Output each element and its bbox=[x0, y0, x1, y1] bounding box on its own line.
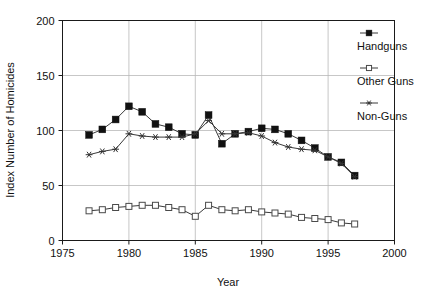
x-tick-label: 2000 bbox=[382, 247, 406, 259]
y-tick-label: 200 bbox=[36, 15, 54, 27]
marker-filled-square bbox=[218, 140, 225, 147]
marker-filled-square bbox=[245, 128, 252, 135]
marker-open-square bbox=[99, 207, 105, 213]
marker-open-square bbox=[139, 202, 145, 208]
marker-filled-square bbox=[152, 121, 159, 128]
y-tick-label: 100 bbox=[36, 125, 54, 137]
marker-filled-square bbox=[139, 108, 146, 115]
marker-open-square bbox=[352, 221, 358, 227]
marker-open-square bbox=[179, 207, 185, 213]
marker-filled-square bbox=[258, 125, 265, 132]
y-tick-label: 150 bbox=[36, 70, 54, 82]
marker-open-square bbox=[219, 207, 225, 213]
x-tick-label: 1985 bbox=[183, 247, 207, 259]
legend-label: Other Guns bbox=[357, 75, 414, 87]
marker-open-square bbox=[338, 220, 344, 226]
marker-filled-square bbox=[86, 132, 93, 139]
x-tick-label: 1995 bbox=[316, 247, 340, 259]
legend-label: Non-Guns bbox=[357, 110, 408, 122]
marker-open-square bbox=[206, 202, 212, 208]
marker-open-square bbox=[86, 208, 92, 214]
marker-filled-square bbox=[351, 172, 358, 179]
marker-open-square bbox=[232, 208, 238, 214]
marker-open-square bbox=[285, 211, 291, 217]
marker-open-square bbox=[245, 207, 251, 213]
y-tick-label: 0 bbox=[48, 235, 54, 247]
x-tick-label: 1975 bbox=[50, 247, 74, 259]
marker-open-square bbox=[299, 214, 305, 220]
x-tick-label: 1990 bbox=[249, 247, 273, 259]
marker-filled-square bbox=[272, 126, 279, 133]
marker-filled-square bbox=[126, 103, 133, 110]
legend-label: Handguns bbox=[357, 40, 408, 52]
marker-open-square bbox=[325, 217, 331, 223]
y-axis-title: Index Number of Homicides bbox=[4, 62, 16, 198]
marker-filled-square bbox=[205, 112, 212, 119]
marker-filled-square bbox=[112, 116, 119, 123]
marker-open-square bbox=[366, 65, 371, 70]
y-tick-label: 50 bbox=[42, 180, 54, 192]
chart-figure: 197519801985199019952000 050100150200 Ye… bbox=[0, 0, 438, 294]
marker-open-square bbox=[272, 210, 278, 216]
marker-open-square bbox=[166, 205, 172, 211]
marker-open-square bbox=[259, 209, 265, 215]
marker-filled-square bbox=[285, 130, 292, 137]
marker-filled-square bbox=[99, 126, 106, 133]
marker-filled-square bbox=[366, 30, 372, 36]
marker-filled-square bbox=[165, 124, 172, 131]
marker-filled-square bbox=[298, 137, 305, 144]
x-axis-title: Year bbox=[217, 276, 240, 288]
marker-open-square bbox=[126, 203, 132, 209]
marker-open-square bbox=[312, 216, 318, 222]
marker-open-square bbox=[192, 213, 198, 219]
marker-open-square bbox=[152, 202, 158, 208]
x-tick-label: 1980 bbox=[117, 247, 141, 259]
homicide-index-line-chart: 197519801985199019952000 050100150200 Ye… bbox=[0, 0, 438, 294]
marker-open-square bbox=[113, 205, 119, 211]
